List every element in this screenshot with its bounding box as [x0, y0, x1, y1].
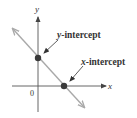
origin-label: 0 [30, 89, 34, 98]
y-intercept-pointer-arrow [44, 40, 58, 53]
x-axis-label: x [107, 81, 112, 91]
y-axis-label: y [34, 4, 39, 14]
y-intercept-point [35, 55, 41, 61]
x-intercept-point [61, 83, 67, 89]
y-intercept-label-text: -intercept [61, 30, 101, 40]
x-intercept-pointer-arrow [70, 66, 83, 81]
coordinate-diagram: y x 0 y-intercept x-intercept [0, 0, 137, 118]
x-intercept-label: x-intercept [80, 57, 126, 67]
y-intercept-label: y-intercept [56, 30, 101, 40]
x-intercept-label-text: -intercept [86, 57, 126, 67]
